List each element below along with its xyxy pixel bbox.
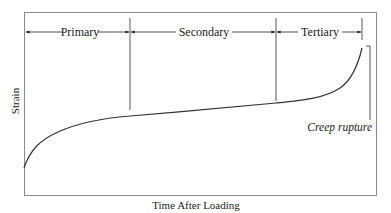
y-axis-label: Strain bbox=[9, 87, 21, 114]
stage-label-tertiary: Tertiary bbox=[301, 25, 339, 39]
plot-frame bbox=[25, 13, 377, 196]
creep-rupture-label: Creep rupture bbox=[307, 121, 372, 134]
x-axis-label: Time After Loading bbox=[152, 199, 240, 211]
creep-strain-curve bbox=[24, 48, 362, 168]
creep-rupture-bracket bbox=[366, 46, 370, 120]
stage-label-primary: Primary bbox=[61, 25, 100, 39]
creep-diagram: Primary Secondary Tertiary Creep rupture… bbox=[0, 0, 391, 213]
stage-label-secondary: Secondary bbox=[179, 25, 230, 39]
